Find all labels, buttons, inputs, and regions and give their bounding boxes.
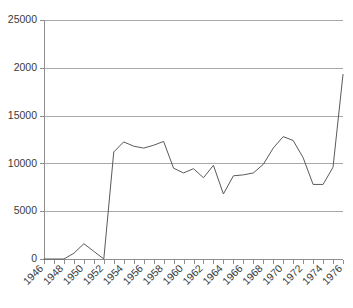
y-tick-label-25000: 25000 [8, 13, 37, 25]
x-tick-label-1958: 1958 [140, 262, 165, 287]
chart-screenshot: 050001000015000200025000 194619481950195… [0, 0, 353, 308]
x-tick-label-1966: 1966 [220, 262, 245, 287]
x-tick-label-1954: 1954 [100, 262, 125, 287]
y-tick-label-20000: 2000 [14, 61, 38, 73]
x-tick-label-1972: 1972 [280, 262, 305, 287]
x-tick-label-1976: 1976 [319, 262, 344, 287]
x-tick-label-1974: 1974 [299, 262, 324, 287]
gridlines-group [44, 21, 343, 260]
x-tick-label-1970: 1970 [260, 262, 285, 287]
x-tick-label-1950: 1950 [60, 262, 85, 287]
line-chart: 050001000015000200025000 194619481950195… [0, 0, 353, 308]
x-tick-label-1962: 1962 [180, 262, 205, 287]
x-tick-labels-group: 1946194819501952195419561958196019621964… [20, 262, 344, 287]
data-series-group [44, 74, 343, 259]
y-tick-label-5000: 5000 [14, 204, 38, 216]
y-tick-labels-group: 050001000015000200025000 [8, 13, 37, 264]
x-tick-label-1960: 1960 [160, 262, 185, 287]
x-tick-label-1948: 1948 [40, 262, 65, 287]
x-tick-label-1956: 1956 [120, 262, 145, 287]
x-tick-label-1964: 1964 [200, 262, 225, 287]
y-tick-label-15000: 15000 [8, 109, 37, 121]
x-tick-label-1968: 1968 [240, 262, 265, 287]
x-tick-label-1952: 1952 [80, 262, 105, 287]
y-tick-label-10000: 10000 [8, 157, 37, 169]
y-tick-marks-group [40, 21, 44, 260]
x-tick-marks-group [45, 260, 344, 264]
data-line-series [44, 74, 343, 259]
x-tick-label-1946: 1946 [20, 262, 45, 287]
